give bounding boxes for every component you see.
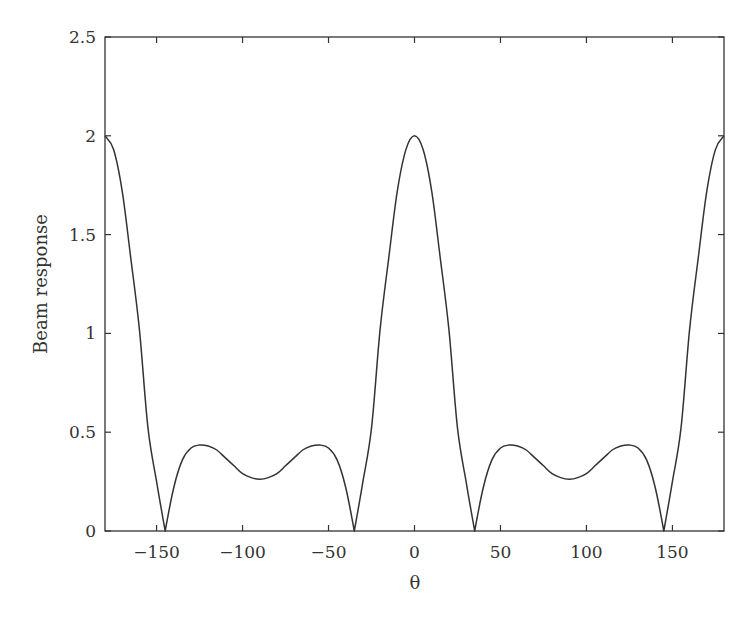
y-tick-label: 0.5 (69, 422, 96, 442)
axes-frame (105, 37, 724, 531)
x-tick-label: 0 (409, 542, 420, 562)
x-axis-ticks: −150−100−50050100150 (133, 37, 688, 562)
y-axis-label: Beam response (30, 214, 51, 354)
x-axis-label: θ (410, 572, 421, 593)
y-tick-label: 1.5 (69, 225, 96, 245)
y-tick-label: 2.5 (69, 27, 96, 47)
x-tick-label: 100 (570, 542, 602, 562)
beam-response-chart: −150−100−50050100150 00.511.522.5 θ Beam… (0, 0, 752, 621)
y-tick-label: 1 (85, 323, 96, 343)
x-tick-label: 150 (656, 542, 688, 562)
x-tick-label: −50 (311, 542, 347, 562)
y-tick-label: 2 (85, 126, 96, 146)
x-tick-label: −150 (133, 542, 180, 562)
beam-response-line (105, 136, 724, 531)
x-tick-label: 50 (490, 542, 512, 562)
y-axis-ticks: 00.511.522.5 (69, 27, 724, 541)
x-tick-label: −100 (219, 542, 266, 562)
y-tick-label: 0 (85, 521, 96, 541)
